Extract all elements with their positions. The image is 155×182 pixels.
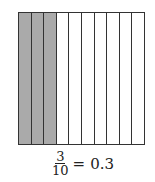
empty-column (132, 13, 144, 144)
empty-column (107, 13, 120, 144)
tenths-grid (18, 12, 145, 145)
fraction: 3 10 (52, 150, 69, 177)
decimal-value: 0.3 (90, 155, 114, 173)
shaded-column (32, 13, 45, 144)
empty-column (69, 13, 82, 144)
numerator: 3 (55, 150, 65, 164)
empty-column (57, 13, 70, 144)
empty-column (120, 13, 133, 144)
shaded-column (44, 13, 57, 144)
empty-column (95, 13, 108, 144)
shaded-column (19, 13, 32, 144)
equation: 3 10 = 0.3 (52, 150, 114, 177)
empty-column (82, 13, 95, 144)
denominator: 10 (52, 164, 69, 177)
equals-sign: = (73, 155, 86, 173)
